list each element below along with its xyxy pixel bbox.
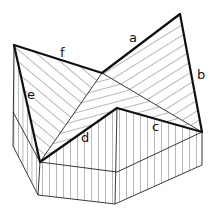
label-c: c <box>152 119 159 134</box>
label-b: b <box>197 67 205 82</box>
label-a: a <box>129 30 137 45</box>
roof-diagram: a b c d e f <box>0 0 215 212</box>
label-f: f <box>60 45 65 60</box>
label-d: d <box>81 130 89 145</box>
label-e: e <box>27 87 35 102</box>
